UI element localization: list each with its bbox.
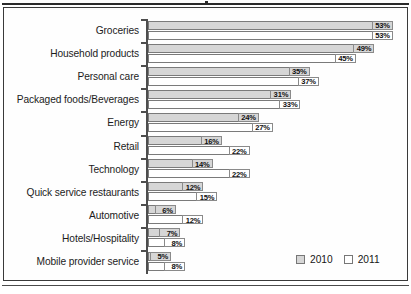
bar-value-2011: 22% xyxy=(229,169,250,178)
category-label: Technology xyxy=(4,161,139,178)
category-label: Packaged foods/Beverages xyxy=(4,91,139,108)
bar-value-2010: 5% xyxy=(150,252,171,261)
bar-value-2011: 8% xyxy=(164,238,185,247)
category-label: Energy xyxy=(4,114,139,131)
bar-row: Automotive6%12% xyxy=(4,204,407,227)
category-label: Groceries xyxy=(4,22,139,39)
bar-row: Packaged foods/Beverages31%33% xyxy=(4,88,407,111)
category-label: Personal care xyxy=(4,68,139,85)
legend-item-2010[interactable]: 2010 xyxy=(296,254,333,265)
bar-value-2010: 35% xyxy=(289,67,310,76)
legend-label-2011: 2011 xyxy=(358,254,380,265)
bar-2011[interactable] xyxy=(148,31,393,40)
bar-row: Household products49%45% xyxy=(4,42,407,65)
bar-value-2011: 8% xyxy=(164,262,185,271)
bar-row: Groceries53%53% xyxy=(4,19,407,42)
bar-2010[interactable] xyxy=(148,44,374,53)
category-label: Hotels/Hospitality xyxy=(4,230,139,247)
bar-row: Quick service restaurants12%15% xyxy=(4,181,407,204)
legend-swatch-2010 xyxy=(296,255,305,264)
bar-value-2011: 37% xyxy=(298,77,319,86)
category-label: Quick service restaurants xyxy=(4,184,139,201)
bar-row: Hotels/Hospitality7%8% xyxy=(4,227,407,250)
page-frame: Groceries53%53%Household products49%45%P… xyxy=(0,0,411,294)
bar-row: Retail16%22% xyxy=(4,135,407,158)
bar-value-2011: 15% xyxy=(196,192,217,201)
legend-label-2010: 2010 xyxy=(310,254,333,265)
category-label: Household products xyxy=(4,45,139,62)
bar-2010[interactable] xyxy=(148,67,310,76)
chart-container: Groceries53%53%Household products49%45%P… xyxy=(3,7,408,281)
bar-value-2010: 7% xyxy=(159,228,180,237)
bar-value-2011: 45% xyxy=(335,54,356,63)
category-label: Mobile provider service xyxy=(4,253,139,270)
category-label: Automotive xyxy=(4,207,139,224)
bar-value-2010: 6% xyxy=(155,205,176,214)
bar-value-2011: 22% xyxy=(229,146,250,155)
bar-value-2010: 31% xyxy=(270,90,291,99)
bar-value-2010: 14% xyxy=(192,159,213,168)
bar-row: Technology14%22% xyxy=(4,158,407,181)
bar-value-2010: 53% xyxy=(372,21,393,30)
bar-value-2011: 53% xyxy=(372,31,393,40)
category-label: Retail xyxy=(4,138,139,155)
chart-legend: 2010 2011 xyxy=(296,254,380,265)
page-rule-bottom xyxy=(2,285,409,286)
bar-value-2010: 49% xyxy=(353,44,374,53)
bar-value-2010: 16% xyxy=(201,136,222,145)
scan-speck xyxy=(205,1,208,4)
bar-value-2010: 24% xyxy=(238,113,259,122)
bar-value-2011: 12% xyxy=(182,215,203,224)
bar-row: Energy24%27% xyxy=(4,111,407,134)
bar-value-2011: 27% xyxy=(252,123,273,132)
bar-2011[interactable] xyxy=(148,54,356,63)
bar-row: Personal care35%37% xyxy=(4,65,407,88)
bar-value-2010: 12% xyxy=(182,182,203,191)
legend-swatch-2011 xyxy=(344,255,353,264)
bar-value-2011: 33% xyxy=(279,100,300,109)
legend-item-2011[interactable]: 2011 xyxy=(344,254,380,265)
bar-2011[interactable] xyxy=(148,77,319,86)
bar-2010[interactable] xyxy=(148,21,393,30)
plot-area: Groceries53%53%Household products49%45%P… xyxy=(4,8,407,280)
bar-2011[interactable] xyxy=(148,100,300,109)
